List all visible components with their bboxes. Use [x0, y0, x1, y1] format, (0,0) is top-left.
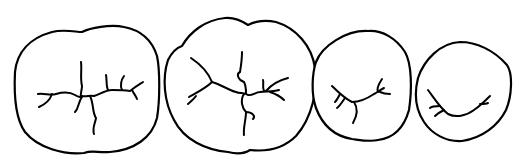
- tooth-3: [313, 31, 411, 141]
- tooth-1: [15, 26, 160, 153]
- teeth-diagram: [0, 0, 524, 164]
- tooth-4-groove-right: [480, 103, 488, 104]
- tooth-1-groove-up: [81, 62, 82, 97]
- tooth-1-outline: [15, 26, 160, 153]
- tooth-2: [165, 18, 316, 153]
- tooth-3-outline: [313, 31, 411, 141]
- tooth-4: [416, 42, 511, 141]
- tooth-2-outline: [165, 18, 316, 153]
